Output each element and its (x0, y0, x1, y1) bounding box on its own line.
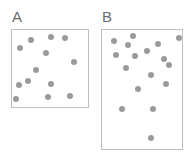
data-point (144, 48, 150, 54)
data-point (111, 38, 117, 44)
data-point (176, 35, 182, 41)
panel-a-label: A (12, 9, 22, 24)
data-point (17, 45, 23, 51)
data-point (166, 62, 172, 68)
data-point (163, 81, 169, 87)
data-point (13, 96, 19, 102)
data-point (28, 37, 34, 43)
data-point (148, 135, 154, 141)
panel-b-label: B (102, 9, 112, 24)
data-point (132, 53, 138, 59)
data-point (67, 93, 73, 99)
figure-root: A B (0, 0, 192, 156)
data-point (123, 65, 129, 71)
data-point (113, 52, 119, 58)
data-point (150, 106, 156, 112)
data-point (119, 106, 125, 112)
data-point (33, 67, 39, 73)
data-point (48, 34, 54, 40)
data-point (43, 50, 49, 56)
data-point (135, 86, 141, 92)
data-point (25, 78, 31, 84)
data-point (125, 42, 131, 48)
data-point (45, 94, 51, 100)
data-point (16, 82, 22, 88)
data-point (161, 56, 167, 62)
data-point (130, 33, 136, 39)
data-point (155, 41, 161, 47)
panel-b-frame (101, 29, 183, 150)
data-point (48, 81, 54, 87)
data-point (62, 35, 68, 41)
data-point (148, 72, 154, 78)
data-point (71, 59, 77, 65)
